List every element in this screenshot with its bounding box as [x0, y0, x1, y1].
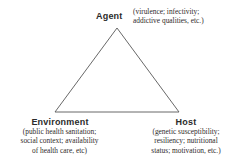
- diagram-canvas: Agent (virulence; infectivity; addictive…: [0, 0, 245, 166]
- triangle-outline: [55, 28, 179, 112]
- vertex-detail-agent-line-2: addictive qualities, etc.): [133, 16, 241, 25]
- vertex-label-agent: Agent: [96, 11, 123, 21]
- vertex-detail-agent: (virulence; infectivity; addictive quali…: [133, 7, 241, 26]
- vertex-detail-environment-line-1: (public health sanitation;: [3, 127, 116, 136]
- vertex-detail-environment: (public health sanitation; social contex…: [3, 127, 116, 155]
- vertex-detail-host-line-2: resiliency; nutritional: [131, 136, 241, 145]
- vertex-detail-agent-line-1: (virulence; infectivity;: [133, 7, 241, 16]
- vertex-label-host: Host: [155, 117, 217, 127]
- vertex-detail-host-line-3: status; motivation, etc.): [131, 146, 241, 155]
- vertex-detail-environment-line-3: of health care, etc): [3, 146, 116, 155]
- vertex-detail-environment-line-2: social context; availability: [3, 136, 116, 145]
- vertex-detail-host: (genetic susceptibility; resiliency; nut…: [131, 127, 241, 155]
- vertex-detail-host-line-1: (genetic susceptibility;: [131, 127, 241, 136]
- vertex-label-environment: Environment: [14, 117, 106, 127]
